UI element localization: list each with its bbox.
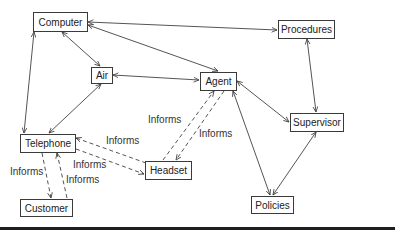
edge-procedures-supervisor xyxy=(307,39,316,112)
node-agent: Agent xyxy=(200,72,237,91)
node-procedures: Procedures xyxy=(278,20,335,39)
edge-supervisor-policies xyxy=(273,132,316,195)
node-label: Supervisor xyxy=(293,117,341,128)
edge-label-agent-headset: Informs xyxy=(199,128,232,139)
node-label: Headset xyxy=(150,165,187,176)
node-air: Air xyxy=(91,67,113,84)
edge-headset-agent xyxy=(163,91,214,160)
edge-computer-agent xyxy=(88,25,218,71)
node-telephone: Telephone xyxy=(20,134,76,153)
edge-computer-procedures xyxy=(88,22,277,30)
node-label: Telephone xyxy=(25,138,71,149)
bottom-rule xyxy=(0,227,395,230)
node-headset: Headset xyxy=(145,161,192,180)
edge-label-telephone-headset: Informs xyxy=(73,159,106,170)
node-customer: Customer xyxy=(20,199,73,217)
edge-air-telephone xyxy=(49,84,101,133)
edge-agent-supervisor xyxy=(237,81,289,122)
edge-agent-policies xyxy=(233,91,270,195)
edge-label-customer-telephone: Informs xyxy=(66,174,99,185)
node-label: Policies xyxy=(255,200,289,211)
edge-telephone-customer xyxy=(42,153,51,198)
edge-agent-headset xyxy=(176,91,224,160)
edge-label-telephone-customer: Informs xyxy=(10,166,43,177)
edge-computer-air xyxy=(62,32,100,66)
node-label: Procedures xyxy=(281,24,332,35)
node-computer: Computer xyxy=(33,12,88,32)
edge-label-headset-agent: Informs xyxy=(148,114,181,125)
edge-label-headset-telephone: Informs xyxy=(106,135,139,146)
node-policies: Policies xyxy=(251,196,294,214)
node-label: Agent xyxy=(205,76,231,87)
node-label: Air xyxy=(96,70,108,81)
node-label: Computer xyxy=(39,17,83,28)
node-supervisor: Supervisor xyxy=(290,113,344,132)
edge-air-agent xyxy=(113,75,199,80)
node-label: Customer xyxy=(25,203,68,214)
edge-computer-telephone xyxy=(24,32,34,133)
